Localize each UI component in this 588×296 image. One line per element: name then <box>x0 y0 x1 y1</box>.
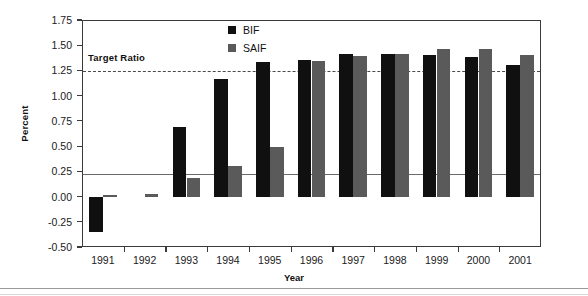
y-tick-label: 1.75 <box>28 14 72 26</box>
x-tick-mark <box>291 247 292 252</box>
y-tick-label: 0.25 <box>28 165 72 177</box>
bottom-divider-secondary <box>0 294 588 295</box>
y-tick-mark <box>77 95 82 96</box>
bar-bif-2000 <box>465 57 479 196</box>
bar-saif-2000 <box>479 49 493 196</box>
y-tick-label: 1.00 <box>28 90 72 102</box>
y-tick-mark <box>77 196 82 197</box>
x-tick-mark <box>124 247 125 252</box>
x-tick-label: 1996 <box>289 254 335 266</box>
legend-label-saif: SAIF <box>243 43 266 54</box>
x-tick-mark <box>332 247 333 252</box>
bar-bif-1999 <box>423 55 437 196</box>
x-tick-mark <box>249 247 250 252</box>
bar-bif-1998 <box>381 54 395 196</box>
bar-saif-1991 <box>103 195 117 197</box>
bar-bif-1991 <box>89 197 103 232</box>
y-tick-label: 1.25 <box>28 64 72 76</box>
x-tick-label: 2001 <box>497 254 543 266</box>
x-tick-mark <box>416 247 417 252</box>
bar-saif-2001 <box>520 55 534 196</box>
x-tick-label: 1999 <box>414 254 460 266</box>
legend-label-bif: BIF <box>243 25 259 36</box>
y-tick-mark <box>77 146 82 147</box>
y-tick-mark <box>77 246 82 247</box>
y-tick-mark <box>77 120 82 121</box>
x-tick-label: 1998 <box>372 254 418 266</box>
x-axis-title: Year <box>0 272 588 283</box>
legend-swatch-saif <box>228 44 236 52</box>
x-tick-label: 2000 <box>455 254 501 266</box>
bar-bif-1993 <box>173 127 187 197</box>
x-tick-label: 1992 <box>122 254 168 266</box>
y-tick-label: -0.50 <box>28 241 72 253</box>
bar-saif-1998 <box>395 54 409 196</box>
bar-saif-1999 <box>437 49 451 196</box>
y-tick-mark <box>77 19 82 20</box>
x-tick-label: 1994 <box>205 254 251 266</box>
bar-saif-1993 <box>187 178 201 196</box>
y-tick-label: 1.50 <box>28 39 72 51</box>
y-tick-mark <box>77 70 82 71</box>
bar-bif-1994 <box>214 79 228 197</box>
y-tick-label: 0.75 <box>28 115 72 127</box>
x-tick-label: 1993 <box>163 254 209 266</box>
chart-legend: BIF SAIF <box>228 22 266 58</box>
bar-saif-1997 <box>353 56 367 196</box>
target-ratio-label: Target Ratio <box>88 52 145 63</box>
bar-saif-1995 <box>270 147 284 196</box>
y-tick-mark <box>77 45 82 46</box>
x-tick-mark <box>374 247 375 252</box>
x-tick-label: 1997 <box>330 254 376 266</box>
bottom-divider <box>0 288 588 289</box>
x-tick-label: 1991 <box>80 254 126 266</box>
bar-saif-1992 <box>145 194 159 197</box>
x-tick-mark <box>207 247 208 252</box>
bar-saif-1994 <box>228 166 242 196</box>
x-tick-mark <box>165 247 166 252</box>
x-tick-mark <box>458 247 459 252</box>
bar-bif-2001 <box>506 65 520 196</box>
legend-item-saif: SAIF <box>228 40 266 56</box>
bar-bif-1997 <box>339 54 353 196</box>
y-tick-label: 0.00 <box>28 191 72 203</box>
legend-item-bif: BIF <box>228 22 266 38</box>
x-tick-label: 1995 <box>247 254 293 266</box>
y-axis-title: Percent <box>19 94 30 154</box>
y-tick-mark <box>77 171 82 172</box>
bar-chart-figure: Target Ratio 1.751.501.251.000.750.500.2… <box>0 0 588 296</box>
bar-bif-1996 <box>298 60 312 196</box>
y-tick-label: -0.25 <box>28 216 72 228</box>
bar-bif-1995 <box>256 62 270 196</box>
bar-saif-1996 <box>312 61 326 196</box>
y-tick-mark <box>77 221 82 222</box>
legend-swatch-bif <box>228 26 236 34</box>
x-tick-mark <box>499 247 500 252</box>
y-tick-label: 0.50 <box>28 140 72 152</box>
